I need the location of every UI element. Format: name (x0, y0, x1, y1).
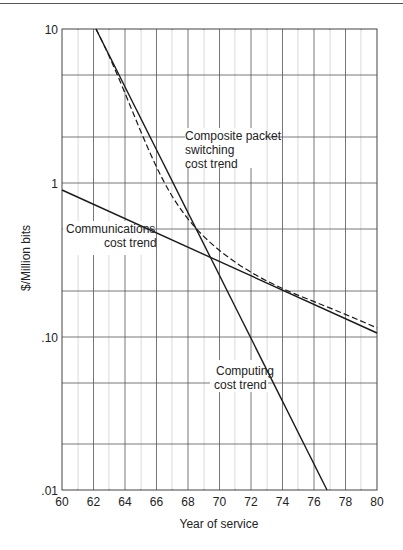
y-axis-title: $/Million bits (19, 225, 33, 291)
x-tick-74: 74 (276, 495, 290, 509)
x-tick-64: 64 (118, 495, 132, 509)
x-tick-76: 76 (307, 495, 321, 509)
y-tick-1: 1 (51, 177, 58, 191)
x-tick-78: 78 (339, 495, 353, 509)
composite-annotation-line-3: cost trend (185, 157, 238, 171)
x-tick-80: 80 (370, 495, 384, 509)
y-tick-10: 10 (45, 23, 59, 37)
composite-annotation-line-1: Composite packet (185, 129, 282, 143)
x-tick-labels: 60 62 64 66 68 70 72 74 76 78 80 (55, 495, 384, 509)
communications-annotation-line-2: cost trend (104, 236, 157, 250)
x-tick-62: 62 (87, 495, 101, 509)
x-tick-60: 60 (55, 495, 69, 509)
composite-packet-switching-cost-trend-line (96, 29, 377, 328)
x-tick-66: 66 (150, 495, 164, 509)
composite-annotation-line-2: switching (185, 143, 234, 157)
y-tick-0-10: .10 (41, 331, 58, 345)
x-tick-72: 72 (244, 495, 258, 509)
computing-annotation-line-2: cost trend (214, 378, 267, 392)
x-axis-title: Year of service (180, 517, 259, 531)
chart: Composite packet switching cost trend Co… (0, 0, 403, 550)
communications-annotation-line-1: Communications (66, 222, 155, 236)
vertical-gridlines (78, 29, 362, 490)
x-tick-70: 70 (213, 495, 227, 509)
computing-annotation-line-1: Computing (216, 364, 274, 378)
x-tick-68: 68 (181, 495, 195, 509)
computing-cost-trend-line (96, 29, 327, 490)
